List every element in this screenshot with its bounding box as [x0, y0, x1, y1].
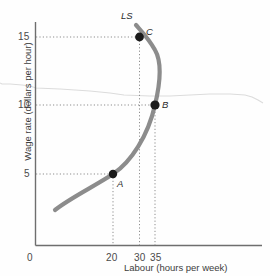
- curve-label-ls: LS: [121, 10, 133, 21]
- y-axis-title: Wage rate (dollars per hour): [22, 27, 33, 177]
- data-points-layer: [0, 0, 270, 276]
- point-label-b: B: [162, 99, 168, 110]
- data-point-a: [109, 170, 117, 178]
- figure-labour-supply-chart: 15 10 5 0 20 30 35 A B C LS Wage rate (d…: [0, 0, 270, 276]
- origin-label-0: 0: [27, 252, 33, 263]
- data-point-b: [150, 100, 159, 109]
- point-label-a: A: [117, 178, 123, 189]
- point-label-c: C: [146, 26, 153, 37]
- data-point-c: [135, 33, 144, 42]
- x-tick-label-20: 20: [106, 252, 118, 263]
- x-axis-title: Labour (hours per week): [124, 262, 228, 273]
